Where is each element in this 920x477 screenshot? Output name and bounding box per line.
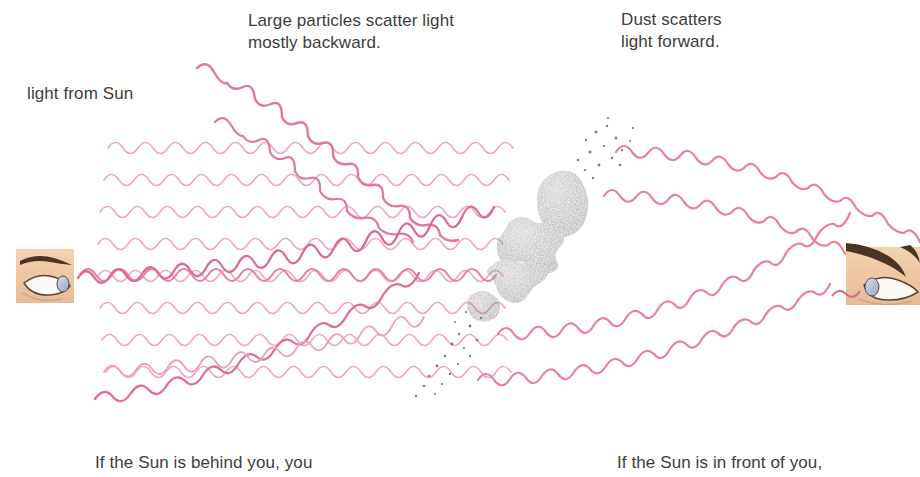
caption-dust: Dust scatters light forward. xyxy=(621,9,722,53)
iris-right xyxy=(865,278,879,296)
caption-light-from-sun: light from Sun xyxy=(27,83,133,105)
illustration-canvas: Large particles scatter light mostly bac… xyxy=(0,0,920,477)
caption-large-particles: Large particles scatter light mostly bac… xyxy=(248,10,454,54)
iris-left xyxy=(57,276,69,292)
caption-sun-in-front: If the Sun is in front of you, xyxy=(617,452,822,474)
observer-left xyxy=(16,249,74,303)
observer-right xyxy=(832,243,920,305)
caption-sun-behind: If the Sun is behind you, you xyxy=(95,452,312,474)
observer-layer xyxy=(0,0,920,477)
